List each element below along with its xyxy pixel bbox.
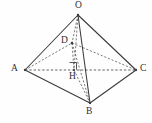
hidden-edges (25, 15, 136, 103)
vertex-dot-C (135, 69, 137, 71)
geometry-figure: O A C B D H (0, 0, 152, 123)
edge-O-D (72, 15, 78, 43)
edge-A-O (25, 15, 78, 70)
edge-D-C (72, 43, 136, 70)
right-angle-marker (70, 63, 77, 70)
vertex-label-H: H (69, 72, 76, 82)
edge-O-C (78, 15, 136, 70)
edge-A-B (25, 70, 90, 103)
vertex-dot-O (77, 14, 79, 16)
edge-B-C (90, 70, 136, 103)
edge-O-B (78, 15, 90, 103)
vertex-label-O: O (75, 1, 82, 11)
vertex-label-D: D (61, 36, 68, 46)
vertex-dot-D (71, 42, 73, 44)
vertex-label-C: C (140, 64, 146, 74)
solid-edges (25, 15, 136, 103)
geometry-canvas (0, 0, 152, 123)
vertex-dot-B (89, 102, 91, 104)
vertex-dots (24, 14, 137, 104)
vertex-label-A: A (11, 64, 18, 74)
edge-A-D (25, 43, 72, 70)
vertex-label-B: B (86, 107, 92, 117)
vertex-dot-A (24, 69, 26, 71)
